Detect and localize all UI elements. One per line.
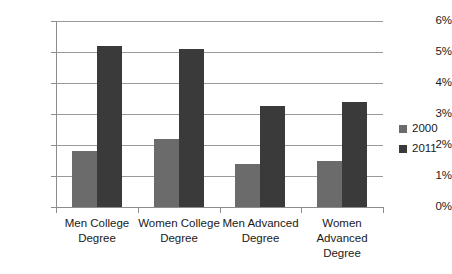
y-axis-line [56,21,57,208]
legend-swatch-icon [399,145,407,153]
x-category-label: Men Advanced Degree [220,216,301,246]
bar-2000 [72,151,97,207]
y-tick-label: 0% [406,201,452,213]
x-tick-mark [56,207,57,213]
bar-2011 [342,102,367,207]
legend-label: 2000 [412,123,438,135]
x-category-line: Men College [56,216,138,231]
x-tick-mark [138,207,139,213]
bar-group [154,21,204,207]
x-tick-mark [301,207,302,213]
bar-2000 [317,161,342,208]
bar-2000 [235,164,260,207]
x-category-line: Men Advanced [220,216,301,231]
x-category-line: Degree [56,231,138,246]
x-category-label: Men College Degree [56,216,138,246]
y-tick-label: 6% [406,15,452,27]
x-category-line: Women College [138,216,220,231]
y-tick-label: 4% [406,77,452,89]
bar-group [72,21,122,207]
bar-2011 [179,49,204,207]
legend-item-2011[interactable]: 2011 [399,139,449,159]
x-tick-mark [383,207,384,213]
plot-area [56,21,383,207]
bar-2011 [97,46,122,207]
legend-swatch-icon [399,125,407,133]
bar-2011 [260,106,285,207]
bar-2000 [154,139,179,207]
y-tick-label: 1% [406,170,452,182]
x-category-label: Women Advanced Degree [301,216,383,261]
x-category-line: Degree [138,231,220,246]
y-tick-label: 3% [406,108,452,120]
legend-item-2000[interactable]: 2000 [399,119,449,139]
x-tick-mark [220,207,221,213]
x-category-line: Women [301,216,383,231]
legend-label: 2011 [412,143,437,155]
x-category-line: Advanced [301,231,383,246]
x-category-label: Women College Degree [138,216,220,246]
y-tick-label: 5% [406,46,452,58]
bar-group [235,21,285,207]
legend: 2000 2011 [399,119,449,159]
bar-group [317,21,367,207]
bar-chart: 6% 5% 4% 3% 2% 1% 0% [0,0,452,274]
x-category-line: Degree [220,231,301,246]
x-category-line: Degree [301,246,383,261]
